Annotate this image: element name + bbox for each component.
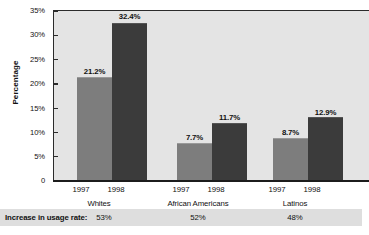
bar-value-whites-1998: 32.4% (105, 12, 154, 21)
y-axis-title: Percentage (11, 50, 20, 116)
bar-whites-1998[interactable] (112, 23, 147, 180)
bar-value-african-americans-1998: 11.7% (205, 113, 254, 122)
bar-value-african-americans-1997: 7.7% (170, 133, 219, 142)
bar-latinos-1998[interactable] (308, 117, 343, 180)
increase-rate-whites: 53% (80, 213, 128, 222)
y-tick-label-10: 10% (30, 129, 45, 137)
bar-value-latinos-1998: 12.9% (301, 108, 350, 117)
y-tick-label-0: 0 (41, 177, 45, 185)
x-label-latinos-1998: 1998 (290, 185, 334, 194)
group-label-latinos: Latinos (250, 199, 340, 208)
group-label-african-americans: African Americans (153, 199, 243, 208)
y-tick-label-25: 25% (30, 56, 45, 64)
bar-african-americans-1998[interactable] (212, 123, 247, 180)
x-axis-line (53, 180, 369, 182)
y-tick-label-35: 35% (30, 7, 45, 15)
x-label-whites-1998: 1998 (94, 185, 138, 194)
y-tick-label-15: 15% (30, 105, 45, 113)
increase-rate-latinos: 48% (271, 213, 319, 222)
bar-value-latinos-1997: 8.7% (266, 128, 315, 137)
bar-african-americans-1997[interactable] (177, 143, 212, 180)
chart-container: Percentage 35% 30% 25% 20% 15% 10% 5% 0 … (0, 0, 369, 235)
y-axis: Percentage 35% 30% 25% 20% 15% 10% 5% 0 (0, 0, 53, 195)
x-label-african-americans-1998: 1998 (194, 185, 238, 194)
bars-layer: 21.2% 32.4% 7.7% 11.7% 8.7% 12.9% (53, 10, 369, 180)
increase-rate-label: Increase in usage rate: (5, 213, 87, 222)
y-tick-label-20: 20% (30, 80, 45, 88)
y-tick-label-5: 5% (34, 153, 45, 161)
group-label-whites: Whites (54, 199, 144, 208)
increase-rate-african-americans: 52% (174, 213, 222, 222)
bar-value-whites-1997: 21.2% (70, 67, 119, 76)
y-tick-label-30: 30% (30, 31, 45, 39)
bar-latinos-1997[interactable] (273, 138, 308, 180)
bar-whites-1997[interactable] (77, 77, 112, 180)
